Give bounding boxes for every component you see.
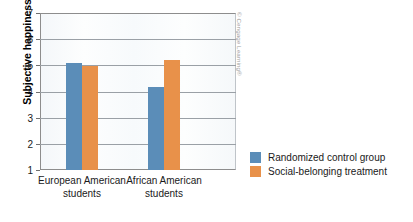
- y-tick-mark: [36, 92, 40, 93]
- y-tick-mark: [36, 170, 40, 171]
- y-tick-mark: [36, 39, 40, 40]
- bar-control-group-1: [66, 63, 82, 170]
- copyright-credit: © Cengage Learning®: [236, 12, 243, 76]
- x-category-label-2: African Americanstudents: [104, 175, 224, 200]
- y-tick-mark: [36, 118, 40, 119]
- legend-item-treatment: Social-belonging treatment: [250, 164, 387, 178]
- legend-label-control: Randomized control group: [268, 152, 385, 163]
- x-category-label-line: African American: [104, 175, 224, 188]
- bar-treatment-group-2: [164, 60, 180, 170]
- y-tick-label: 3: [13, 112, 33, 123]
- y-tick-label: 7: [13, 8, 33, 19]
- y-tick-label: 1: [13, 165, 33, 176]
- y-tick-label: 4: [13, 86, 33, 97]
- x-category-label-line: students: [104, 188, 224, 201]
- chart-legend: Randomized control group Social-belongin…: [250, 150, 387, 178]
- legend-item-control: Randomized control group: [250, 150, 387, 164]
- y-tick-label: 5: [13, 60, 33, 71]
- y-tick-label: 6: [13, 34, 33, 45]
- legend-label-treatment: Social-belonging treatment: [268, 166, 387, 177]
- bar-control-group-2: [148, 87, 164, 170]
- bar-treatment-group-1: [82, 66, 98, 170]
- bar-chart-figure: Subjective happiness 1234567 European Am…: [0, 0, 413, 222]
- y-tick-label: 2: [13, 138, 33, 149]
- legend-swatch-icon-treatment: [250, 166, 261, 177]
- gridline: [40, 39, 236, 40]
- y-tick-mark: [36, 13, 40, 14]
- y-tick-mark: [36, 144, 40, 145]
- y-tick-mark: [36, 65, 40, 66]
- plot-area: 1234567: [40, 13, 236, 170]
- legend-swatch-icon-control: [250, 152, 261, 163]
